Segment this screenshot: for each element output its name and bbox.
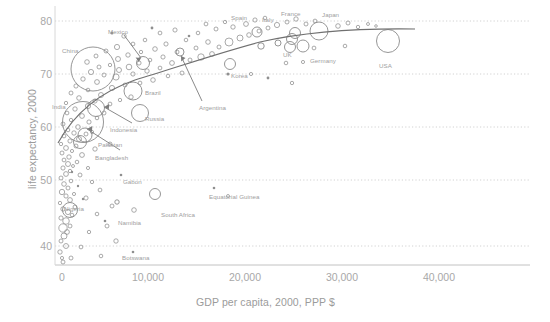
point-label-india: India: [52, 103, 66, 110]
x-tick-0: 0: [59, 271, 65, 283]
arrow-indonesia: [104, 107, 132, 123]
small-solid-points: [71, 27, 270, 254]
point-label-equatorial-guinea: Equatorial Guinea: [209, 193, 259, 200]
x-tick-40000: 40,000: [423, 271, 455, 283]
point-label-russia: Russia: [145, 115, 164, 122]
bubble-korea: [225, 59, 236, 70]
bubble-italy: [290, 28, 301, 39]
point-label-gabon: Gabon: [123, 178, 142, 185]
point-label-mexico: Mexico: [108, 28, 128, 35]
point-label-argentina: Argentina: [199, 104, 226, 111]
plot-area: [0, 0, 550, 322]
point-label-japan: Japan: [322, 11, 339, 18]
point-label-spain: Spain: [231, 14, 247, 21]
bubble-chart-figure: 80 70 60 50 40 0 10,000 20,000 30,000 40…: [0, 0, 550, 322]
point-label-usa: USA: [379, 62, 392, 69]
point-label-indonesia: Indonesia: [110, 126, 137, 133]
point-label-brazil: Brazil: [145, 89, 161, 96]
point-label-italy: Italy: [262, 16, 274, 23]
point-label-bangladesh: Bangladesh: [95, 154, 128, 161]
labeled-bubbles: [63, 22, 400, 218]
point-label-uk: UK: [283, 51, 292, 58]
point-label-korea: Korea: [231, 72, 248, 79]
x-axis-title: GDP per capita, 2000, PPP $: [196, 296, 335, 308]
point-label-pakistan: Pakistan: [98, 141, 122, 148]
bubble-south-africa: [150, 189, 161, 200]
bubble-namibia: [115, 200, 119, 204]
bubble-japan: [310, 22, 328, 40]
gridlines: [55, 21, 530, 246]
x-tick-30000: 30,000: [326, 271, 358, 283]
point-label-namibia: Namibia: [118, 219, 141, 226]
bubble-germany: [297, 40, 309, 52]
bubble-argentina: [176, 48, 184, 56]
point-label-china: China: [62, 47, 78, 54]
arrow-mexico: [124, 35, 141, 58]
point-label-nigeria: Nigeria: [64, 205, 84, 212]
y-tick-80: 80: [22, 15, 52, 27]
point-label-botswana: Botswana: [122, 254, 150, 261]
y-axis-title: life expectancy, 2000: [26, 59, 38, 219]
point-label-germany: Germany: [310, 57, 336, 64]
point-label-south-africa: South Africa: [161, 211, 195, 218]
x-tick-10000: 10,000: [132, 271, 164, 283]
point-label-france: France: [281, 10, 301, 17]
y-tick-40: 40: [22, 240, 52, 252]
x-tick-20000: 20,000: [229, 271, 261, 283]
bubble-usa: [377, 30, 400, 53]
